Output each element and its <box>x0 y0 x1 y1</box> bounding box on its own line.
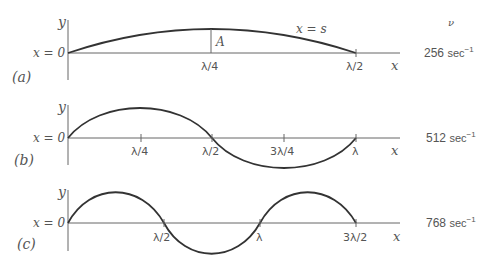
tick-label: λ <box>352 145 359 158</box>
origin-label: x = 0 <box>33 131 65 145</box>
end-label: x = s <box>296 22 327 36</box>
standing-wave-diagram: ν y x = 0 (a) A x = s λ/4 λ/2 x 256 sec−… <box>0 0 491 264</box>
tick-label: λ/2 <box>153 231 170 244</box>
y-axis-label: y <box>57 184 67 200</box>
frequency-value: 768 sec−1 <box>426 215 476 230</box>
panel-label: (c) <box>17 236 36 252</box>
tick-label: λ/2 <box>346 60 363 73</box>
y-axis-label: y <box>57 99 67 115</box>
frequency-value: 512 sec−1 <box>426 130 476 145</box>
x-axis-label: x <box>393 229 401 244</box>
origin-label: x = 0 <box>33 46 65 60</box>
tick-label: λ/4 <box>131 145 148 158</box>
tick-label: λ/2 <box>202 145 219 158</box>
tick-label: λ <box>256 231 263 244</box>
x-axis-label: x <box>391 143 399 158</box>
panel-label: (a) <box>12 69 31 85</box>
tick-label: 3λ/4 <box>270 145 294 158</box>
panel-label: (b) <box>14 152 34 168</box>
amplitude-label: A <box>215 35 225 49</box>
origin-label: x = 0 <box>33 216 65 230</box>
y-axis-label: y <box>57 14 67 30</box>
tick-label: 3λ/2 <box>343 231 367 244</box>
panel-c: y x = 0 (c) λ/2 λ 3λ/2 x 768 sec−1 <box>17 184 476 254</box>
frequency-column-header: ν <box>448 17 454 28</box>
x-axis-label: x <box>391 58 399 73</box>
frequency-value: 256 sec−1 <box>424 45 474 60</box>
tick-label: λ/4 <box>201 60 218 73</box>
panel-a: y x = 0 (a) A x = s λ/4 λ/2 x 256 sec−1 <box>12 14 474 85</box>
panel-b: y x = 0 (b) λ/4 λ/2 3λ/4 λ x 512 sec−1 <box>14 99 476 168</box>
